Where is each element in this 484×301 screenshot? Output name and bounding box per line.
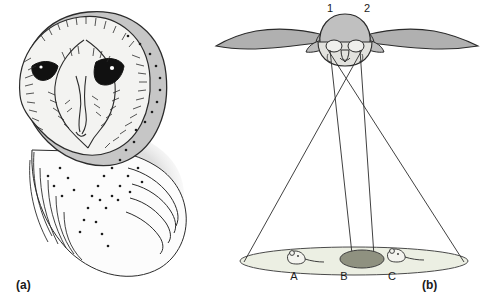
owl-head-dome [320,14,370,44]
sight-line-ear1-b [330,50,352,254]
target-label-a: A [284,270,304,282]
panel-label-b: (b) [422,278,437,292]
owl-localization-diagram [210,0,484,301]
sight-line-ear1-right [328,50,464,262]
ear-label-1: 1 [320,2,340,14]
figure-root: (a) [0,0,484,301]
sight-line-ear2-b [360,50,374,256]
owl-head-illustration [0,0,210,301]
panel-a: (a) [0,0,210,301]
sight-line-ear2-left [244,50,362,262]
target-label-b: B [334,270,354,282]
sight-lines [244,50,464,262]
target-spot-b [340,250,384,268]
ear-label-2: 2 [357,2,377,14]
target-label-c: C [382,270,402,282]
panel-label-a: (a) [16,278,31,292]
owl-flying-figure [216,14,478,66]
panel-b: (b) [210,0,484,301]
